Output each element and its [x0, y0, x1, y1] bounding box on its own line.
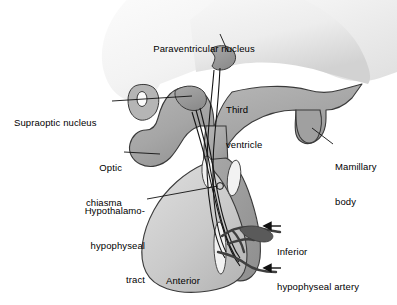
anatomical-diagram: Paraventricular nucleus Supraoptic nucle… [0, 0, 397, 305]
label-line: hypophyseal [57, 240, 145, 252]
label-line: ventricle [226, 139, 282, 151]
label-hypothalamo-hypophyseal-tract: Hypothalamo- hypophyseal tract [57, 182, 145, 305]
label-line: Anterior [152, 275, 214, 287]
label-line: Optic [64, 162, 122, 174]
label-inferior-hypophyseal-artery: Inferior hypophyseal artery [277, 223, 393, 305]
label-line: Inferior [277, 246, 393, 258]
label-line: Mamillary [335, 161, 393, 173]
label-anterior-lobe: Anterior lobe [152, 252, 214, 305]
label-line: Supraoptic nucleus [14, 117, 110, 129]
label-line: tract [57, 274, 145, 286]
label-line: Paraventricular nucleus [148, 43, 260, 55]
label-line: Hypothalamo- [57, 205, 145, 217]
label-line: Third [226, 104, 282, 116]
label-line: hypophyseal artery [277, 281, 393, 293]
label-line: body [335, 196, 393, 208]
label-third-ventricle: Third ventricle [226, 81, 282, 173]
label-mamillary-body: Mamillary body [335, 138, 393, 230]
label-paraventricular-nucleus: Paraventricular nucleus [148, 20, 260, 78]
